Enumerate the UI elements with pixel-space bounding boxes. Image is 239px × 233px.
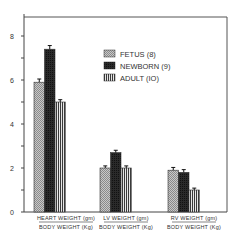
category-label-numerator: RV WEIGHT (gm) [171,215,218,221]
category-label-denominator: BODY WEIGHT (Kg) [167,224,221,230]
bar [168,170,179,212]
legend-swatch [104,74,115,81]
bar-chart: 02468 HEART WEIGHT (gm)BODY WEIGHT (Kg)L… [0,0,239,233]
bar [55,102,66,212]
bar [100,168,111,212]
bar [179,172,190,212]
y-tick-label: 0 [10,209,14,216]
bar [189,190,200,212]
category-label-denominator: BODY WEIGHT (Kg) [99,224,153,230]
legend-label: FETUS (8) [120,50,156,59]
y-tick-label: 4 [10,121,14,128]
category-label-numerator: LV WEIGHT (gm) [103,215,148,221]
legend-label: ADULT (IO) [120,74,159,83]
y-axis: 02468 [10,33,24,216]
bar [121,168,132,212]
category-label-numerator: HEART WEIGHT (gm) [37,215,95,221]
legend-swatch [104,62,115,69]
bar [34,82,45,212]
y-tick-label: 2 [10,165,14,172]
x-axis-labels: HEART WEIGHT (gm)BODY WEIGHT (Kg)LV WEIG… [37,215,221,230]
y-tick-label: 6 [10,77,14,84]
bar [45,49,56,212]
legend: FETUS (8)NEWBORN (9)ADULT (IO) [104,50,171,83]
bars [34,46,200,212]
bar [111,153,122,212]
legend-label: NEWBORN (9) [120,62,171,71]
y-tick-label: 8 [10,33,14,40]
legend-swatch [104,50,115,57]
category-label-denominator: BODY WEIGHT (Kg) [39,224,93,230]
